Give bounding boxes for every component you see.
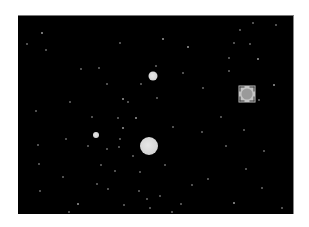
star[interactable] xyxy=(117,117,119,119)
star[interactable] xyxy=(162,38,164,40)
star[interactable] xyxy=(123,204,125,206)
star[interactable] xyxy=(26,43,28,45)
star[interactable] xyxy=(45,49,47,51)
star[interactable] xyxy=(139,171,141,173)
star[interactable] xyxy=(80,68,82,70)
star[interactable] xyxy=(39,190,41,192)
star[interactable] xyxy=(239,29,241,31)
star[interactable] xyxy=(257,58,259,60)
star[interactable] xyxy=(245,168,247,170)
star[interactable] xyxy=(91,116,93,118)
star[interactable] xyxy=(87,145,89,147)
star[interactable] xyxy=(98,67,100,69)
sky-view[interactable] xyxy=(18,15,294,214)
star[interactable] xyxy=(220,116,222,118)
star[interactable] xyxy=(187,46,189,48)
medium-star[interactable] xyxy=(149,72,158,81)
large-star[interactable] xyxy=(140,137,158,155)
star[interactable] xyxy=(182,72,184,74)
star[interactable] xyxy=(77,203,79,205)
star[interactable] xyxy=(146,198,148,200)
star[interactable] xyxy=(281,207,283,209)
star[interactable] xyxy=(225,145,227,147)
star[interactable] xyxy=(106,83,108,85)
star[interactable] xyxy=(41,32,43,34)
star[interactable] xyxy=(96,183,98,185)
star[interactable] xyxy=(140,83,142,85)
star[interactable] xyxy=(149,207,151,209)
star[interactable] xyxy=(249,43,251,45)
star[interactable] xyxy=(159,195,161,197)
star[interactable] xyxy=(228,70,230,72)
star[interactable] xyxy=(135,117,137,119)
star[interactable] xyxy=(122,98,124,100)
star[interactable] xyxy=(202,87,204,89)
corner-bracket-icon xyxy=(250,97,255,102)
star[interactable] xyxy=(172,126,174,128)
star[interactable] xyxy=(207,178,209,180)
star[interactable] xyxy=(68,211,70,213)
selection-marker[interactable] xyxy=(239,86,256,103)
star[interactable] xyxy=(164,164,166,166)
star[interactable] xyxy=(191,184,193,186)
corner-bracket-icon xyxy=(240,87,245,92)
star[interactable] xyxy=(156,97,158,99)
star[interactable] xyxy=(273,84,275,86)
star[interactable] xyxy=(100,164,102,166)
star[interactable] xyxy=(138,190,140,192)
star[interactable] xyxy=(35,110,37,112)
star[interactable] xyxy=(155,65,157,67)
star[interactable] xyxy=(171,211,173,213)
star[interactable] xyxy=(127,101,129,103)
star[interactable] xyxy=(275,24,277,26)
star[interactable] xyxy=(69,101,71,103)
star[interactable] xyxy=(233,42,235,44)
star[interactable] xyxy=(252,22,254,24)
small-star[interactable] xyxy=(93,132,99,138)
star[interactable] xyxy=(65,138,67,140)
star[interactable] xyxy=(62,176,64,178)
star[interactable] xyxy=(38,163,40,165)
star[interactable] xyxy=(201,131,203,133)
star[interactable] xyxy=(114,170,116,172)
star[interactable] xyxy=(233,202,235,204)
star[interactable] xyxy=(107,188,109,190)
corner-bracket-icon xyxy=(240,97,245,102)
star[interactable] xyxy=(119,42,121,44)
star[interactable] xyxy=(37,144,39,146)
star[interactable] xyxy=(258,99,260,101)
star[interactable] xyxy=(180,203,182,205)
star[interactable] xyxy=(106,148,108,150)
star[interactable] xyxy=(118,146,120,148)
star[interactable] xyxy=(122,127,124,129)
star[interactable] xyxy=(243,129,245,131)
star[interactable] xyxy=(228,57,230,59)
star[interactable] xyxy=(263,150,265,152)
star[interactable] xyxy=(119,138,121,140)
corner-bracket-icon xyxy=(250,87,255,92)
star[interactable] xyxy=(261,187,263,189)
star[interactable] xyxy=(132,155,134,157)
